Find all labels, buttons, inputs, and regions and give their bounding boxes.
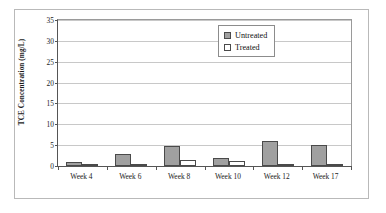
bar-untreated [164, 146, 180, 166]
x-tick-mark [205, 166, 206, 170]
bar-untreated [262, 141, 278, 166]
bar-treated [131, 164, 147, 166]
x-tick-label: Week 10 [215, 172, 241, 181]
x-tick-mark [302, 166, 303, 170]
y-tick-label: 15 [47, 99, 54, 108]
legend-label-untreated: Untreated [235, 31, 267, 40]
legend-swatch-treated-icon [224, 44, 231, 51]
bar-treated [180, 160, 196, 166]
y-tick-label: 20 [47, 78, 54, 87]
bar-treated [82, 164, 98, 166]
x-tick-mark [156, 166, 157, 170]
y-tick-label: 0 [50, 162, 54, 171]
x-tick-mark [58, 166, 59, 170]
legend-item-untreated: Untreated [224, 29, 267, 41]
x-tick-mark [351, 166, 352, 170]
bar-group [302, 20, 351, 166]
x-tick-label: Week 6 [119, 172, 141, 181]
bar-group [107, 20, 156, 166]
bar-group [156, 20, 205, 166]
bar-treated [327, 164, 343, 166]
x-tick-mark [253, 166, 254, 170]
y-tick-label: 5 [50, 141, 54, 150]
y-tick-label: 30 [47, 36, 54, 45]
x-tick-label: Week 8 [168, 172, 190, 181]
chart-figure: TCE Concentration (mg/L) 05101520253035 … [0, 0, 386, 213]
plot-area: 05101520253035 [57, 19, 352, 167]
bar-untreated [213, 158, 229, 166]
chart-legend: Untreated Treated [218, 25, 275, 57]
bar-treated [229, 161, 245, 166]
x-tick-label: Week 17 [313, 172, 339, 181]
y-tick-label: 25 [47, 57, 54, 66]
x-tick-label: Week 4 [70, 172, 92, 181]
y-tick-label: 35 [47, 16, 54, 25]
legend-item-treated: Treated [224, 41, 267, 53]
x-tick-label: Week 12 [264, 172, 290, 181]
y-axis-title: TCE Concentration (mg/L) [18, 22, 26, 142]
legend-label-treated: Treated [235, 43, 260, 52]
y-tick-label: 10 [47, 120, 54, 129]
bar-treated [278, 164, 294, 166]
x-tick-mark [107, 166, 108, 170]
legend-swatch-untreated-icon [224, 32, 231, 39]
bar-untreated [311, 145, 327, 166]
bar-untreated [66, 162, 82, 166]
bar-untreated [115, 154, 131, 166]
bar-group [58, 20, 107, 166]
